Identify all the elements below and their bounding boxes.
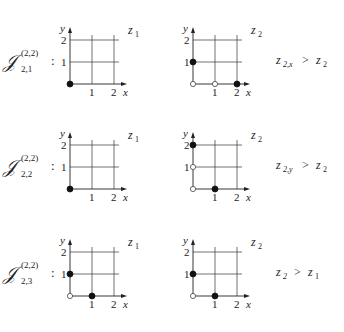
x-tick-1: 1 — [212, 86, 218, 98]
panel-z-subscript: 2 — [258, 30, 262, 39]
grid-panel-right: 1212xyz2 — [182, 234, 262, 310]
x-axis-label: x — [245, 191, 251, 203]
filled-point — [212, 186, 218, 192]
jump-symbol: 𝒥 — [2, 51, 23, 73]
x-axis-label: x — [245, 86, 251, 98]
hollow-point — [212, 81, 217, 86]
panel-z-subscript: 1 — [135, 242, 139, 251]
relation-label: z2,y>z2 — [275, 158, 327, 174]
y-axis-arrow-icon — [191, 239, 195, 245]
relation-rhs: z — [315, 53, 321, 67]
y-axis-arrow-icon — [68, 132, 72, 138]
grid-panel-right: 1212xyz2 — [182, 22, 262, 98]
hollow-point — [190, 81, 195, 86]
diagram-row-2: 𝒥(2,2)2,2:1212xyz11212xyz2z2,y>z2 — [2, 127, 327, 203]
x-tick-2: 2 — [234, 86, 240, 98]
y-axis-label: y — [182, 22, 188, 34]
grid-panel-right: 1212xyz2 — [182, 127, 262, 203]
panel-z-subscript: 2 — [258, 135, 262, 144]
label-subscript: 2,1 — [21, 64, 32, 74]
relation-rhs-subscript: 2 — [323, 60, 327, 69]
relation-rhs-subscript: 1 — [315, 272, 319, 281]
relation-lhs-subscript: 2,x — [283, 60, 293, 69]
filled-point — [67, 186, 73, 192]
x-axis-label: x — [122, 86, 128, 98]
x-tick-2: 2 — [111, 86, 117, 98]
relation-lhs-subscript: 2 — [283, 272, 287, 281]
grid-panel-left: 1212xyz1 — [59, 22, 139, 98]
y-tick-2: 2 — [61, 246, 67, 258]
y-tick-1: 1 — [184, 56, 190, 68]
relation-label: z2>z1 — [275, 265, 319, 281]
y-tick-1: 1 — [184, 161, 190, 173]
y-tick-2: 2 — [184, 34, 190, 46]
y-tick-2: 2 — [184, 139, 190, 151]
y-axis-label: y — [59, 234, 65, 246]
label-colon: : — [51, 53, 55, 68]
panel-z-subscript: 2 — [258, 242, 262, 251]
x-axis-label: x — [122, 298, 128, 310]
relation-lhs-subscript: 2,y — [283, 165, 293, 174]
filled-point — [67, 81, 73, 87]
y-tick-1: 1 — [61, 161, 67, 173]
hollow-point — [190, 293, 195, 298]
label-colon: : — [51, 158, 55, 173]
diagram-row-3: 𝒥(2,2)2,3:1212xyz11212xyz2z2>z1 — [2, 234, 319, 310]
filled-point — [234, 81, 240, 87]
panel-z-subscript: 1 — [135, 30, 139, 39]
relation-rhs: z — [307, 265, 313, 279]
relation-operator: > — [294, 265, 301, 279]
relation-label: z2,x>z2 — [275, 53, 327, 69]
filled-point — [190, 142, 196, 148]
panel-z-label: z — [127, 235, 133, 249]
y-axis-label: y — [59, 127, 65, 139]
x-tick-2: 2 — [111, 298, 117, 310]
label-subscript: 2,3 — [21, 276, 33, 286]
panel-z-subscript: 1 — [135, 135, 139, 144]
filled-point — [212, 293, 218, 299]
relation-lhs: z — [275, 158, 281, 172]
y-tick-2: 2 — [61, 34, 67, 46]
panel-z-label: z — [127, 128, 133, 142]
grid-panel-left: 1212xyz1 — [59, 127, 139, 203]
relation-rhs-subscript: 2 — [323, 165, 327, 174]
jump-diagram: 𝒥(2,2)2,1:1212xyz11212xyz2z2,x>z2𝒥(2,2)2… — [0, 0, 344, 332]
x-tick-1: 1 — [89, 298, 95, 310]
hollow-point — [190, 186, 195, 191]
y-axis-arrow-icon — [191, 132, 195, 138]
relation-operator: > — [302, 53, 309, 67]
filled-point — [67, 271, 73, 277]
panel-z-label: z — [250, 128, 256, 142]
label-superscript: (2,2) — [21, 48, 38, 58]
label-subscript: 2,2 — [21, 169, 32, 179]
label-colon: : — [51, 265, 55, 280]
row-label: 𝒥(2,2)2,1: — [2, 48, 55, 74]
y-axis-arrow-icon — [68, 27, 72, 33]
y-axis-label: y — [59, 22, 65, 34]
hollow-point — [190, 164, 195, 169]
y-tick-2: 2 — [184, 246, 190, 258]
y-tick-1: 1 — [61, 268, 67, 280]
x-axis-label: x — [122, 191, 128, 203]
x-tick-2: 2 — [111, 191, 117, 203]
relation-rhs: z — [315, 158, 321, 172]
x-tick-1: 1 — [89, 86, 95, 98]
x-tick-1: 1 — [212, 191, 218, 203]
panel-z-label: z — [250, 23, 256, 37]
y-tick-1: 1 — [184, 268, 190, 280]
hollow-point — [67, 293, 72, 298]
y-axis-arrow-icon — [191, 27, 195, 33]
filled-point — [89, 293, 95, 299]
x-tick-2: 2 — [234, 191, 240, 203]
label-superscript: (2,2) — [21, 260, 38, 270]
filled-point — [190, 59, 196, 65]
relation-lhs: z — [275, 53, 281, 67]
jump-symbol: 𝒥 — [2, 263, 23, 285]
y-axis-label: y — [182, 127, 188, 139]
row-label: 𝒥(2,2)2,3: — [2, 260, 55, 286]
x-tick-1: 1 — [212, 298, 218, 310]
y-tick-1: 1 — [61, 56, 67, 68]
x-tick-2: 2 — [234, 298, 240, 310]
x-axis-label: x — [245, 298, 251, 310]
jump-symbol: 𝒥 — [2, 156, 23, 178]
